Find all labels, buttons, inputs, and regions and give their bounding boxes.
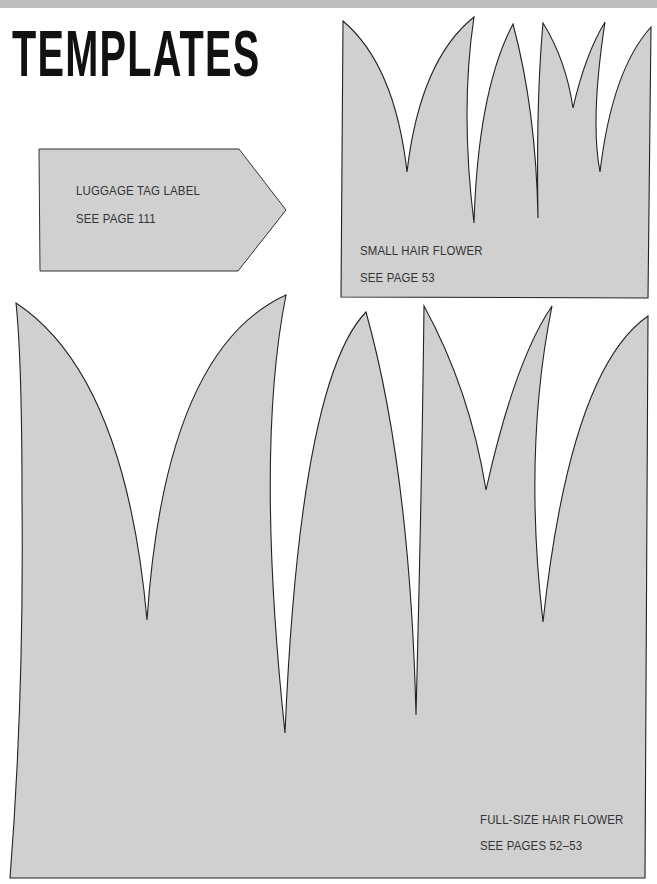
templates-canvas <box>0 0 657 884</box>
small-hair-flower-name: SMALL HAIR FLOWER <box>360 243 483 258</box>
luggage-tag-shape <box>39 149 286 271</box>
full-size-hair-flower-name: FULL-SIZE HAIR FLOWER <box>480 812 624 827</box>
small-hair-flower-reference: SEE PAGE 53 <box>360 270 435 285</box>
full-size-hair-flower-reference: SEE PAGES 52–53 <box>480 838 582 853</box>
luggage-tag-name: LUGGAGE TAG LABEL <box>76 183 200 198</box>
luggage-tag-reference: SEE PAGE 111 <box>76 211 156 226</box>
full-size-hair-flower-shape <box>10 295 648 878</box>
